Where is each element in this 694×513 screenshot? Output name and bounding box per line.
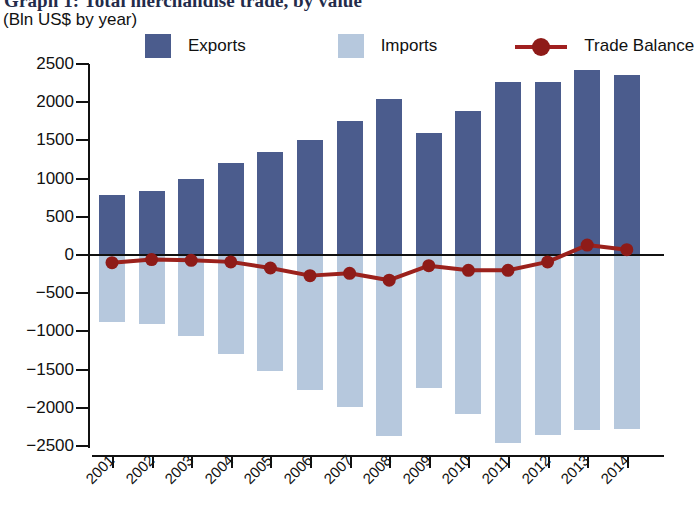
bar-exports (416, 133, 442, 255)
bar-exports (574, 70, 600, 255)
bar-imports (178, 255, 204, 336)
zero-baseline (88, 254, 664, 256)
bar-imports (297, 255, 323, 390)
bar-exports (218, 163, 244, 255)
bar-imports (495, 255, 521, 443)
bar-exports (376, 99, 402, 255)
bar-exports (455, 111, 481, 255)
bar-imports (455, 255, 481, 414)
bar-exports (297, 140, 323, 255)
bar-imports (376, 255, 402, 436)
bar-imports (139, 255, 165, 324)
bar-imports (535, 255, 561, 435)
bar-imports (99, 255, 125, 322)
bar-exports (337, 121, 363, 255)
bar-exports (614, 75, 640, 255)
bar-exports (257, 152, 283, 255)
bar-imports (257, 255, 283, 371)
bar-exports (178, 179, 204, 255)
bar-imports (416, 255, 442, 388)
bar-imports (337, 255, 363, 407)
bar-imports (574, 255, 600, 430)
bar-exports (99, 195, 125, 255)
bar-exports (535, 82, 561, 255)
bar-imports (614, 255, 640, 429)
bar-exports (139, 191, 165, 255)
bar-imports (218, 255, 244, 354)
bar-exports (495, 82, 521, 255)
